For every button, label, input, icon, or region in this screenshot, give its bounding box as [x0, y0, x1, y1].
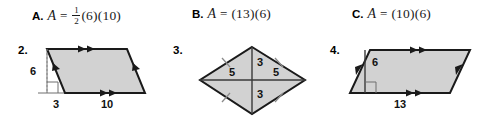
figure-2: 2. 6 3 10 [0, 38, 160, 119]
figure-3-bottom-middle-label: 3 [257, 88, 263, 100]
figure-2-right-angle-marker [47, 82, 58, 93]
choice-c-equals: = [380, 6, 387, 22]
choice-a-variable: A [48, 8, 57, 24]
figure-3-right-label: 5 [273, 66, 279, 78]
choice-a-numerator: 1 [73, 6, 80, 16]
choice-a-letter: A. [32, 10, 44, 22]
choice-c-expression: (10)(6) [391, 6, 431, 22]
choice-c-letter: C. [352, 8, 364, 20]
figure-2-parallelogram [47, 49, 145, 93]
figure-3: 3. 5 3 5 3 [160, 38, 318, 119]
figure-4-base-label: 13 [394, 98, 406, 110]
figure-3-left-label: 5 [229, 66, 235, 78]
figure-2-svg: 6 3 10 [0, 38, 160, 119]
choice-b-expression: (13)(6) [231, 6, 271, 22]
figure-2-height-label: 6 [30, 65, 36, 77]
figure-4-svg: 6 13 [318, 38, 482, 119]
choice-b-variable: A [208, 6, 217, 22]
figure-4: 4. 6 13 [318, 38, 482, 119]
answer-choice-c[interactable]: C. A = (10)(6) [352, 6, 431, 22]
figure-2-offset-label: 3 [53, 98, 59, 110]
figure-4-height-label: 6 [372, 56, 378, 68]
choice-a-denominator: 2 [73, 16, 80, 26]
figure-3-top-middle-label: 3 [257, 56, 263, 68]
choice-b-equals: = [220, 6, 227, 22]
figures-row: 2. 6 3 10 [0, 38, 482, 119]
answer-choices-row: A. A = 1 2 (6)(10) B. A = (13)(6) C. A =… [0, 0, 482, 40]
choice-a-expression: (6)(10) [81, 8, 121, 24]
choice-a-equals: = [60, 8, 67, 24]
choice-c-variable: A [368, 6, 377, 22]
figure-2-base-label: 10 [101, 98, 113, 110]
choice-b-letter: B. [192, 8, 204, 20]
choice-a-fraction: 1 2 [72, 6, 80, 26]
answer-choice-a[interactable]: A. A = 1 2 (6)(10) [32, 6, 121, 26]
figure-3-svg: 5 3 5 3 [160, 38, 318, 119]
answer-choice-b[interactable]: B. A = (13)(6) [192, 6, 271, 22]
figure-4-parallelogram [350, 50, 470, 93]
figure-2-right-side-arrow [132, 63, 140, 71]
